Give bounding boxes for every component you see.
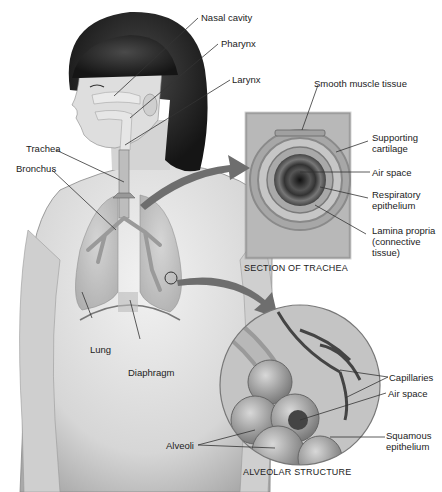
label-supporting-cartilage-line1: Supporting [372,132,418,143]
label-larynx: Larynx [232,74,261,85]
label-lung: Lung [90,344,111,355]
label-bronchus: Bronchus [16,163,56,174]
label-pharynx: Pharynx [221,38,256,49]
caption-section-of-trachea: SECTION OF TRACHEA [244,263,348,274]
label-respiratory-epithelium-line1: Respiratory [372,189,421,200]
label-lamina-propria-line2: (connective [372,236,421,247]
label-nasal-cavity: Nasal cavity [201,12,252,23]
label-alveoli: Alveoli [166,440,194,451]
respiratory-diagram: Nasal cavity Pharynx Larynx Trachea Bron… [0,0,442,492]
label-trachea: Trachea [26,143,61,154]
label-alveolar-air-space: Air space [388,388,428,399]
label-capillaries: Capillaries [389,372,433,383]
label-lamina-propria-line3: tissue) [372,247,400,258]
label-smooth-muscle-tissue: Smooth muscle tissue [314,78,407,89]
label-diaphragm: Diaphragm [128,367,174,378]
label-respiratory-epithelium-line2: epithelium [372,200,415,211]
label-supporting-cartilage-line2: cartilage [372,143,408,154]
label-lamina-propria-line1: Lamina propria [372,225,435,236]
label-squamous-epithelium-line2: epithelium [386,441,429,452]
caption-alveolar-structure: ALVEOLAR STRUCTURE [243,467,351,478]
label-squamous-epithelium-line1: Squamous [386,430,431,441]
trachea-section-panel [246,113,350,258]
label-trachea-air-space: Air space [372,167,412,178]
